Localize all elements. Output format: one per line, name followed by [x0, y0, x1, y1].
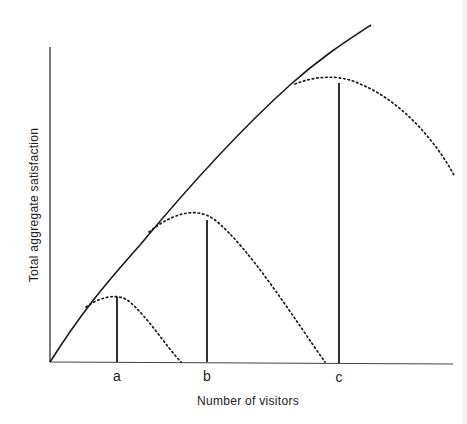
total-satisfaction-curve [50, 25, 371, 362]
chart-canvas [0, 0, 467, 424]
x-axis-label: Number of visitors [197, 394, 299, 408]
tick-label-b: b [203, 368, 211, 384]
dotted-curve-a [86, 297, 181, 362]
tick-label-a: a [113, 368, 121, 384]
page-edge [462, 0, 467, 424]
diagram: a b c Number of visitors Total aggregate… [0, 0, 467, 424]
y-axis-label: Total aggregate satisfaction [27, 128, 41, 283]
tick-label-c: c [336, 369, 343, 385]
dotted-curve-b [149, 213, 325, 362]
x-axis [50, 362, 453, 364]
dotted-curve-c [295, 77, 454, 175]
